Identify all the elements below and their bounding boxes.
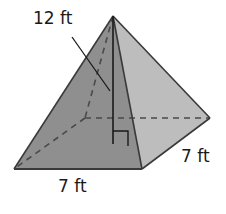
square-pyramid-diagram <box>0 0 226 214</box>
base-front-label: 7 ft <box>58 178 87 195</box>
height-label: 12 ft <box>33 10 72 27</box>
base-side-label: 7 ft <box>181 148 210 165</box>
